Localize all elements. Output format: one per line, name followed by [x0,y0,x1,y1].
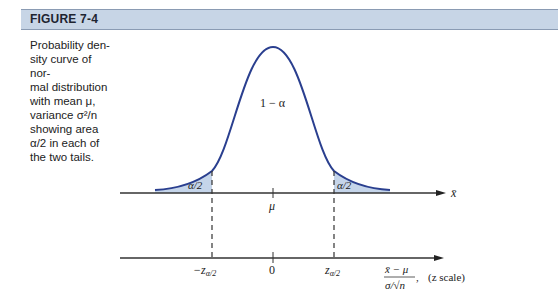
normal-curve-figure: 1 − α α/2 α/2 μ x̄ −zα/2 0 zα/2 x̄ − μ σ… [0,0,558,301]
left-tail-label: α/2 [188,179,203,191]
xbar-axis-label: x̄ [450,186,457,200]
neg-z-label: −zα/2 [193,263,216,278]
z-fraction-numerator: x̄ − μ [384,263,409,275]
zero-label: 0 [269,263,275,277]
right-tail-label: α/2 [337,179,352,191]
z-fraction-comma: , [416,271,419,283]
xbar-axis-arrow [436,190,446,196]
pos-z-label: zα/2 [324,263,340,278]
z-scale-label: (z scale) [428,271,465,284]
z-axis-arrow [434,255,444,261]
density-curve [155,47,390,190]
z-fraction-denominator: σ/√n [385,279,406,291]
mu-label: μ [268,199,275,213]
center-area-label: 1 − α [260,96,286,110]
